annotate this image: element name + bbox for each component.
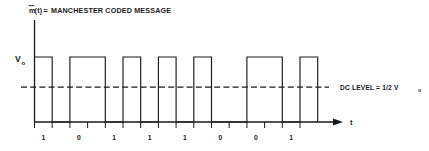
- figure-background: [0, 0, 429, 151]
- bit-label: 1: [148, 134, 152, 141]
- dc-level-label-text: DC LEVEL = 1/2 V: [340, 84, 399, 91]
- title-signal-arg: (t): [35, 6, 43, 15]
- bit-label: 1: [112, 134, 116, 141]
- title-equals: =: [44, 6, 48, 15]
- bit-label: 0: [254, 134, 258, 141]
- title-description: MANCHESTER CODED MESSAGE: [51, 6, 171, 15]
- bit-label: 1: [183, 134, 187, 141]
- manchester-waveform-figure: m (t) = MANCHESTER CODED MESSAGE V o t: [0, 0, 429, 151]
- y-axis-label-text: V: [15, 54, 21, 64]
- bit-label: 1: [289, 134, 293, 141]
- bit-label: 1: [42, 134, 46, 141]
- bit-label: 0: [219, 134, 223, 141]
- bit-label: 0: [77, 134, 81, 141]
- dc-level-label-subscript: o: [418, 87, 421, 93]
- y-axis-label-subscript: o: [22, 60, 26, 66]
